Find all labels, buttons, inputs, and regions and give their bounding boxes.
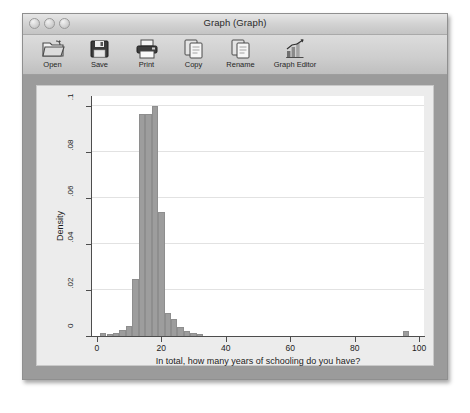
toolbar-label-graph-editor: Graph Editor [274,60,317,69]
x-axis-tick [355,337,356,342]
x-axis-tick [290,337,291,342]
graph-canvas-frame: 0.02.04.06.08.1 020406080100 Density In … [23,75,447,379]
x-axis-tick-label: 40 [221,343,230,353]
window-title: Graph (Graph) [23,17,447,28]
bar-chart-icon [282,37,308,59]
y-axis-tick [86,198,91,199]
x-axis-tick-label: 100 [412,343,426,353]
x-axis-tick [161,337,162,342]
y-axis-tick [86,106,91,107]
toolbar-button-open[interactable]: Open [29,37,76,69]
y-axis-tick [86,244,91,245]
x-axis-tick [419,337,420,342]
toolbar-button-rename[interactable]: Rename [217,37,264,69]
toolbar-button-save[interactable]: Save [76,37,123,69]
x-axis-line [92,336,425,337]
toolbar-label-save: Save [91,60,108,69]
x-axis-tick-label: 60 [285,343,294,353]
y-axis-tick-label: .1 [66,94,75,116]
x-axis-tick-label: 0 [94,343,99,353]
toolbar-button-print[interactable]: Print [123,37,170,69]
y-axis-tick [86,336,91,337]
plot-area [92,96,424,336]
toolbar-label-copy: Copy [185,60,203,69]
folder-icon [40,37,66,59]
toolbar-label-print: Print [139,60,154,69]
floppy-disk-icon [87,37,113,59]
y-axis-tick-label: .06 [66,186,75,208]
toolbar-label-open: Open [43,60,61,69]
printer-icon [134,37,160,59]
histogram-bars [92,96,424,336]
y-axis-line [91,96,92,337]
x-axis-tick [226,337,227,342]
window-titlebar[interactable]: Graph (Graph) [23,14,447,35]
rename-pages-icon [228,37,254,59]
x-axis-tick-label: 80 [350,343,359,353]
toolbar-label-rename: Rename [226,60,254,69]
y-axis-tick-label: 0 [66,324,75,346]
toolbar-button-copy[interactable]: Copy [170,37,217,69]
y-axis-tick [86,152,91,153]
graph-canvas[interactable]: 0.02.04.06.08.1 020406080100 Density In … [36,85,434,366]
graph-window: Graph (Graph) Open [22,13,448,380]
y-axis-tick [86,290,91,291]
y-axis-tick-label: .08 [66,140,75,162]
toolbar: Open Save Prin [23,35,447,75]
y-axis-tick-label: .04 [66,232,75,254]
y-axis-tick-label: .02 [66,278,75,300]
x-axis-tick-label: 20 [157,343,166,353]
x-axis-tick [97,337,98,342]
copy-pages-icon [181,37,207,59]
y-axis-label: Density [55,210,65,240]
toolbar-button-graph-editor[interactable]: Graph Editor [264,37,326,69]
x-axis-label: In total, how many years of schooling do… [92,356,424,366]
